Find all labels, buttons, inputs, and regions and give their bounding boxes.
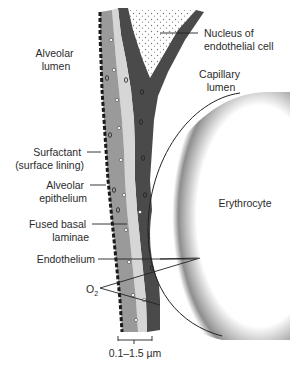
label-erythrocyte: Erythrocyte (218, 197, 271, 209)
label-nucleus: Nucleus of endothelial cell (204, 27, 273, 52)
label-fused-basal-laminae: Fused basal laminae (29, 218, 89, 243)
label-alveolar-lumen: Alveolar lumen (36, 47, 77, 72)
label-oxygen: O2 (86, 283, 98, 297)
label-capillary-lumen: Capillary lumen (199, 68, 243, 93)
erythrocyte (148, 92, 290, 340)
label-endothelium: Endothelium (37, 253, 96, 265)
label-surfactant: Surfactant (surface lining) (15, 146, 84, 171)
label-scale: 0.1–1.5 µm (109, 347, 162, 359)
label-alveolar-epithelium: Alveolar epithelium (39, 179, 87, 204)
alveolar-capillary-diagram: Alveolar lumen Nucleus of endothelial ce… (0, 0, 290, 365)
scale-bar (118, 336, 152, 344)
